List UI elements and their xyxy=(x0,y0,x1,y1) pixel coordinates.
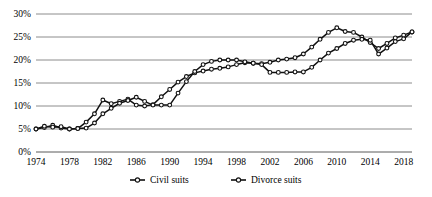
data-point xyxy=(327,51,331,55)
data-point xyxy=(201,69,205,73)
x-tick-label: 2014 xyxy=(361,157,380,167)
data-point xyxy=(235,63,239,67)
x-tick-label: 1974 xyxy=(27,157,46,167)
data-point xyxy=(126,99,130,103)
legend-marker-icon xyxy=(135,178,139,182)
data-point xyxy=(68,127,72,131)
data-point xyxy=(360,37,364,41)
y-tick-label: 5% xyxy=(18,124,31,134)
data-point xyxy=(93,112,97,116)
x-tick-label: 1994 xyxy=(194,157,213,167)
data-point xyxy=(185,75,189,79)
data-point xyxy=(109,102,113,106)
data-point xyxy=(293,70,297,74)
data-point xyxy=(377,47,381,51)
data-point xyxy=(159,95,163,99)
data-point xyxy=(352,31,356,35)
data-point xyxy=(84,120,88,124)
line-chart: 30%25%20%15%10%5%0% 19741978198219861990… xyxy=(0,0,432,197)
data-point xyxy=(226,65,230,69)
data-point xyxy=(393,40,397,44)
data-point xyxy=(59,125,63,129)
y-tick-label: 30% xyxy=(14,9,32,19)
y-tick-label: 0% xyxy=(18,147,31,157)
x-tick-label: 1982 xyxy=(93,157,112,167)
data-point xyxy=(84,126,88,130)
data-point xyxy=(235,58,239,62)
data-point xyxy=(51,125,55,129)
data-point xyxy=(218,66,222,70)
data-point xyxy=(310,45,314,49)
legend-marker-icon xyxy=(236,178,240,182)
data-point xyxy=(368,38,372,42)
data-point xyxy=(101,112,105,116)
x-axis-tick-labels: 1974197819821986199019941998200220062010… xyxy=(27,157,414,167)
data-point xyxy=(168,88,172,92)
y-tick-label: 25% xyxy=(14,32,32,42)
data-point xyxy=(251,61,255,65)
data-point xyxy=(343,30,347,34)
series-markers-group xyxy=(34,26,414,131)
gridlines-group xyxy=(36,14,412,152)
data-point xyxy=(293,56,297,60)
data-point xyxy=(268,60,272,64)
data-point xyxy=(335,47,339,51)
data-point xyxy=(42,124,46,128)
data-point xyxy=(385,42,389,46)
data-point xyxy=(118,101,122,105)
x-tick-label: 2018 xyxy=(394,157,413,167)
data-point xyxy=(285,57,289,61)
data-point xyxy=(193,70,197,74)
data-point xyxy=(201,63,205,67)
y-tick-label: 10% xyxy=(14,101,32,111)
data-point xyxy=(185,80,189,84)
data-point xyxy=(210,67,214,71)
data-point xyxy=(352,38,356,42)
data-point xyxy=(76,127,80,131)
data-point xyxy=(151,103,155,107)
data-point xyxy=(134,103,138,107)
data-point xyxy=(410,30,414,34)
x-tick-label: 1978 xyxy=(60,157,79,167)
data-point xyxy=(176,91,180,95)
data-point xyxy=(260,63,264,67)
x-tick-label: 1990 xyxy=(160,157,179,167)
data-point xyxy=(276,71,280,75)
data-point xyxy=(335,26,339,30)
legend-label: Civil suits xyxy=(150,175,189,185)
data-point xyxy=(134,95,138,99)
data-point xyxy=(143,104,147,108)
data-point xyxy=(243,60,247,64)
y-tick-label: 15% xyxy=(14,78,32,88)
legend-label: Divorce suits xyxy=(251,175,302,185)
x-tick-label: 1986 xyxy=(127,157,146,167)
data-point xyxy=(276,58,280,62)
chart-legend: Civil suitsDivorce suits xyxy=(130,175,302,185)
data-point xyxy=(301,52,305,56)
y-tick-label: 20% xyxy=(14,55,32,65)
data-point xyxy=(318,58,322,62)
x-tick-label: 2002 xyxy=(260,157,279,167)
chart-container: 30%25%20%15%10%5%0% 19741978198219861990… xyxy=(0,0,432,197)
data-point xyxy=(343,42,347,46)
data-point xyxy=(377,52,381,56)
data-point xyxy=(159,103,163,107)
data-point xyxy=(93,121,97,125)
data-point xyxy=(285,71,289,75)
data-point xyxy=(310,65,314,69)
data-point xyxy=(318,37,322,41)
data-point xyxy=(402,37,406,41)
y-axis-tick-labels: 30%25%20%15%10%5%0% xyxy=(14,9,32,157)
data-point xyxy=(176,80,180,84)
data-point xyxy=(327,31,331,35)
data-point xyxy=(210,59,214,63)
data-point xyxy=(301,70,305,74)
x-tick-label: 2010 xyxy=(327,157,346,167)
data-point xyxy=(218,58,222,62)
data-point xyxy=(268,71,272,75)
x-tick-label: 1998 xyxy=(227,157,246,167)
data-point xyxy=(109,106,113,110)
data-point xyxy=(385,46,389,50)
x-tick-label: 2006 xyxy=(294,157,313,167)
data-point xyxy=(143,100,147,104)
